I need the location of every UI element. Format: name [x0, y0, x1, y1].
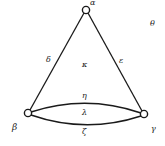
label-kappa: κ [81, 60, 88, 69]
label-epsilon: ε [119, 56, 123, 65]
label-eta: η [82, 91, 87, 100]
label-gamma: γ [151, 124, 156, 133]
vertex-beta [24, 109, 31, 116]
label-beta: β [11, 122, 17, 132]
label-lambda: λ [81, 108, 87, 117]
vertex-gamma [140, 110, 147, 117]
label-delta: δ [46, 55, 51, 64]
vertex-alpha [82, 6, 89, 13]
edge-delta [30, 13, 84, 110]
label-theta: θ [150, 19, 155, 28]
edge-epsilon [88, 13, 142, 111]
label-zeta: ζ [82, 127, 87, 136]
label-alpha: α [90, 0, 96, 7]
planar-graph-diagram: α β γ δ ε η ζ κ λ θ [0, 0, 165, 146]
